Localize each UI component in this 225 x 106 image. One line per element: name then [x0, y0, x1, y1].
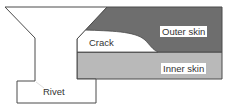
outer-skin-label: Outer skin [160, 26, 207, 37]
crack-label: Crack [89, 37, 114, 48]
diagram-graphic [0, 0, 225, 106]
rivet-crack-diagram: Outer skin Inner skin Crack Rivet [0, 0, 225, 106]
inner-skin-label: Inner skin [161, 63, 206, 74]
rivet-label: Rivet [43, 86, 65, 97]
